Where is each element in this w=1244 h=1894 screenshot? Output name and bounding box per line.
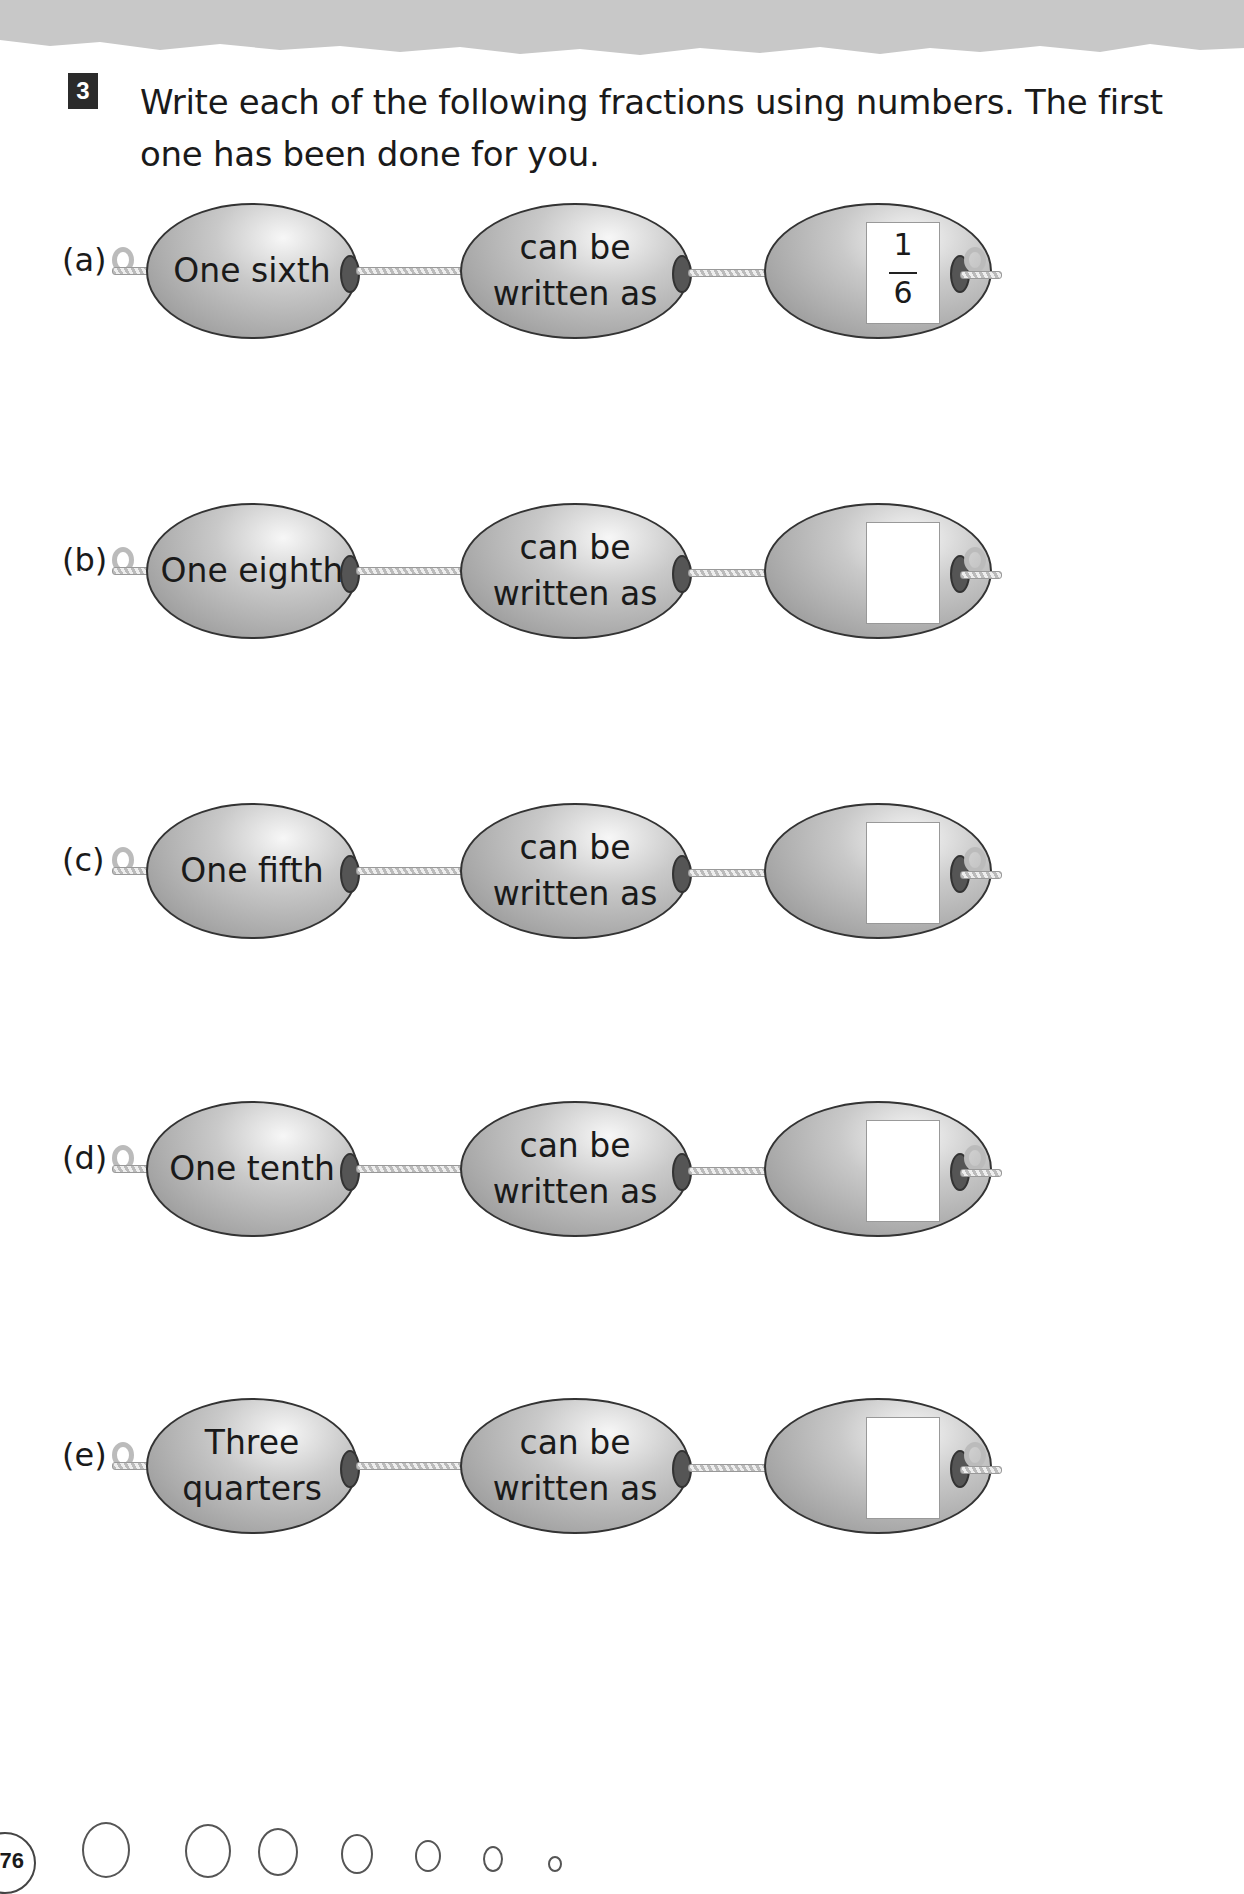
middle-line-2: written as bbox=[462, 571, 688, 617]
words-oval: One fifth bbox=[146, 803, 358, 939]
rope bbox=[688, 1167, 772, 1175]
rope bbox=[356, 1165, 468, 1173]
fraction-row: (d) One tenth can bewritten as bbox=[0, 1093, 1244, 1243]
middle-oval: can bewritten as bbox=[460, 1398, 690, 1534]
middle-line-1: can be bbox=[462, 1123, 688, 1169]
middle-oval: can bewritten as bbox=[460, 1101, 690, 1237]
fraction-words: One tenth bbox=[148, 1146, 356, 1192]
middle-line-2: written as bbox=[462, 1169, 688, 1215]
fraction-words: Three quarters bbox=[148, 1420, 356, 1512]
answer-box[interactable]: 16 bbox=[866, 222, 940, 324]
decorative-circle bbox=[185, 1824, 231, 1878]
words-oval: Three quarters bbox=[146, 1398, 358, 1534]
middle-oval: can bewritten as bbox=[460, 803, 690, 939]
answer-oval bbox=[764, 503, 992, 639]
rope bbox=[960, 1466, 1002, 1474]
middle-line-2: written as bbox=[462, 871, 688, 917]
page-number: 76 bbox=[0, 1848, 24, 1874]
decorative-circle bbox=[82, 1822, 130, 1878]
rope-loop-icon bbox=[964, 547, 986, 573]
answer-box[interactable] bbox=[866, 822, 940, 924]
rope-loop-icon bbox=[964, 1442, 986, 1468]
words-oval: One tenth bbox=[146, 1101, 358, 1237]
rope bbox=[960, 871, 1002, 879]
decorative-circle bbox=[415, 1840, 441, 1872]
fraction-row: (a) One sixth can bewritten as 16 bbox=[0, 195, 1244, 345]
denominator: 6 bbox=[867, 275, 939, 310]
middle-line-2: written as bbox=[462, 271, 688, 317]
words-oval: One eighth bbox=[146, 503, 358, 639]
middle-text: can bewritten as bbox=[462, 225, 688, 317]
middle-text: can bewritten as bbox=[462, 1123, 688, 1215]
rope bbox=[356, 267, 468, 275]
middle-oval: can bewritten as bbox=[460, 503, 690, 639]
rope bbox=[688, 569, 772, 577]
page-number-circle: 76 bbox=[0, 1832, 36, 1894]
fraction-row: (e) Three quarters can bewritten as bbox=[0, 1390, 1244, 1540]
middle-line-2: written as bbox=[462, 1466, 688, 1512]
fraction-words: One fifth bbox=[148, 848, 356, 894]
rope bbox=[356, 567, 468, 575]
answer-oval: 16 bbox=[764, 203, 992, 339]
answer-oval bbox=[764, 803, 992, 939]
numerator: 1 bbox=[867, 227, 939, 262]
row-label: (d) bbox=[62, 1139, 107, 1177]
decorative-circle bbox=[341, 1834, 373, 1874]
middle-text: can bewritten as bbox=[462, 1420, 688, 1512]
rope bbox=[356, 1462, 468, 1470]
middle-oval: can bewritten as bbox=[460, 203, 690, 339]
middle-line-1: can be bbox=[462, 525, 688, 571]
rope bbox=[688, 269, 772, 277]
rope bbox=[688, 1464, 772, 1472]
rope-loop-icon bbox=[964, 247, 986, 273]
fraction-row: (c) One fifth can bewritten as bbox=[0, 795, 1244, 945]
answer-oval bbox=[764, 1101, 992, 1237]
rope bbox=[960, 571, 1002, 579]
torn-paper-header bbox=[0, 0, 1244, 62]
rope bbox=[960, 1169, 1002, 1177]
fraction-row: (b) One eighth can bewritten as bbox=[0, 495, 1244, 645]
rope-loop-icon bbox=[964, 847, 986, 873]
decorative-circle bbox=[483, 1846, 503, 1872]
fraction-words: One eighth bbox=[148, 548, 356, 594]
row-label: (a) bbox=[62, 241, 107, 279]
rope bbox=[688, 869, 772, 877]
decorative-circle bbox=[258, 1828, 298, 1876]
middle-line-1: can be bbox=[462, 825, 688, 871]
middle-line-1: can be bbox=[462, 1420, 688, 1466]
fraction-words: One sixth bbox=[148, 248, 356, 294]
question-number-badge: 3 bbox=[68, 73, 98, 109]
middle-text: can bewritten as bbox=[462, 525, 688, 617]
row-label: (c) bbox=[62, 841, 105, 879]
fraction-bar bbox=[889, 272, 917, 274]
answer-box[interactable] bbox=[866, 1417, 940, 1519]
rope bbox=[356, 867, 468, 875]
middle-text: can bewritten as bbox=[462, 825, 688, 917]
rope bbox=[960, 271, 1002, 279]
answer-oval bbox=[764, 1398, 992, 1534]
question-instruction: Write each of the following fractions us… bbox=[140, 76, 1180, 180]
row-label: (e) bbox=[62, 1436, 107, 1474]
words-oval: One sixth bbox=[146, 203, 358, 339]
decorative-circle bbox=[548, 1856, 562, 1872]
row-label: (b) bbox=[62, 541, 107, 579]
answer-box[interactable] bbox=[866, 1120, 940, 1222]
answer-box[interactable] bbox=[866, 522, 940, 624]
middle-line-1: can be bbox=[462, 225, 688, 271]
rope-loop-icon bbox=[964, 1145, 986, 1171]
